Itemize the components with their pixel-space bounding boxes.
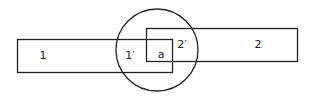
label-region-2-prime: 2′ — [177, 38, 187, 51]
diagram-canvas: 1 1′ a 2′ 2 — [0, 0, 313, 98]
label-region-a: a — [158, 48, 165, 61]
label-region-1-prime: 1′ — [125, 49, 135, 62]
label-region-2: 2 — [255, 38, 262, 51]
label-region-1: 1 — [40, 49, 47, 62]
rectangle-2 — [147, 29, 298, 62]
overlap-diagram: 1 1′ a 2′ 2 — [0, 0, 313, 98]
